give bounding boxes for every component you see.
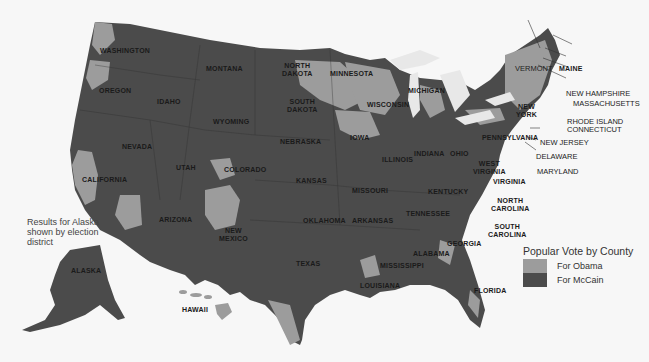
- label-virginia: VIRGINIA: [493, 178, 526, 186]
- legend-item-obama: For Obama: [523, 259, 633, 273]
- label-delaware: DELAWARE: [536, 152, 578, 161]
- label-nebraska: NEBRASKA: [280, 138, 321, 146]
- label-missouri: MISSOURI: [352, 187, 388, 195]
- label-texas: TEXAS: [296, 260, 320, 268]
- label-new-hampshire: NEW HAMPSHIRE: [566, 89, 630, 98]
- label-south-dakota: SOUTH DAKOTA: [287, 98, 318, 114]
- label-arizona: ARIZONA: [159, 216, 192, 224]
- label-louisiana: LOUISIANA: [360, 282, 400, 290]
- label-west-virginia: WEST VIRGINIA: [473, 160, 506, 176]
- label-new-jersey: NEW JERSEY: [540, 138, 589, 147]
- label-utah: UTAH: [176, 164, 196, 172]
- label-kentucky: KENTUCKY: [428, 188, 469, 196]
- legend-label-obama: For Obama: [557, 261, 603, 271]
- label-alaska: ALASKA: [71, 267, 101, 275]
- label-indiana: INDIANA: [414, 150, 445, 158]
- label-south-carolina: SOUTH CAROLINA: [488, 223, 527, 239]
- legend: Popular Vote by County For Obama For McC…: [523, 245, 633, 287]
- label-ohio: OHIO: [450, 150, 469, 158]
- label-michigan: MICHIGAN: [408, 87, 445, 95]
- label-north-carolina: NORTH CAROLINA: [491, 197, 530, 213]
- alaska-note: Results for Alaska shown by election dis…: [27, 217, 127, 247]
- obama-swatch: [523, 259, 547, 273]
- label-oregon: OREGON: [99, 87, 131, 95]
- label-georgia: GEORGIA: [447, 240, 481, 248]
- label-mississippi: MISSISSIPPI: [380, 262, 424, 270]
- label-nevada: NEVADA: [122, 143, 152, 151]
- alaska-shape: [22, 245, 125, 332]
- legend-item-mccain: For McCain: [523, 273, 633, 287]
- label-idaho: IDAHO: [157, 98, 181, 106]
- label-illinois: ILLINOIS: [382, 156, 413, 164]
- label-wyoming: WYOMING: [213, 118, 249, 126]
- label-iowa: IOWA: [350, 134, 369, 142]
- label-colorado: COLORADO: [224, 166, 266, 174]
- label-north-dakota: NORTH DAKOTA: [282, 62, 313, 78]
- label-washington: WASHINGTON: [100, 47, 150, 55]
- legend-label-mccain: For McCain: [557, 275, 604, 285]
- label-vermont: VERMONT: [515, 64, 553, 73]
- label-connecticut: CONNECTICUT: [567, 125, 622, 134]
- label-florida: FLORIDA: [474, 287, 507, 295]
- label-arkansas: ARKANSAS: [352, 217, 393, 225]
- label-wisconsin: WISCONSIN: [367, 101, 409, 109]
- label-oklahoma: OKLAHOMA: [303, 217, 346, 225]
- legend-title: Popular Vote by County: [523, 245, 633, 257]
- label-minnesota: MINNESOTA: [330, 70, 373, 78]
- hawaii-shape: [179, 290, 232, 320]
- label-maine: MAINE: [559, 65, 583, 73]
- label-california: CALIFORNIA: [82, 176, 127, 184]
- label-maryland: MARYLAND: [537, 167, 579, 176]
- label-pennsylvania: PENNSYLVANIA: [482, 134, 538, 142]
- label-new-mexico: NEW MEXICO: [219, 227, 248, 243]
- label-tennessee: TENNESSEE: [406, 210, 450, 218]
- label-alabama: ALABAMA: [413, 250, 450, 258]
- label-montana: MONTANA: [206, 65, 243, 73]
- label-kansas: KANSAS: [296, 177, 327, 185]
- label-new-york: NEW YORK: [516, 103, 537, 119]
- label-massachusetts: MASSACHUSETTS: [573, 99, 640, 108]
- label-hawaii: HAWAII: [182, 306, 208, 314]
- mccain-swatch: [523, 273, 547, 287]
